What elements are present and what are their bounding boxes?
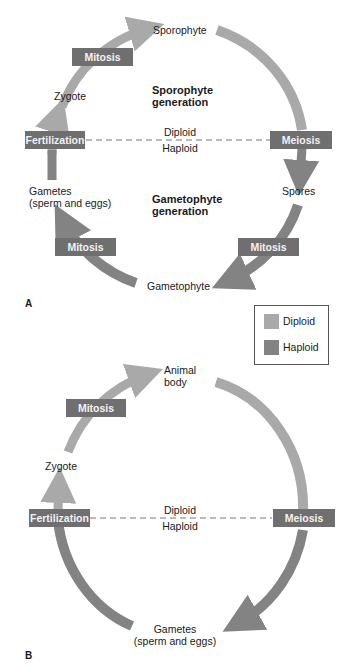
mitosis-box-right: Mitosis <box>238 238 299 256</box>
node-zygote: Zygote <box>54 90 86 102</box>
legend-label-haploid: Haploid <box>283 341 319 353</box>
mitosis-box-top: Mitosis <box>72 48 133 66</box>
divider-label-haploid-b: Haploid <box>155 520 205 532</box>
node-spores: Spores <box>282 185 315 197</box>
legend-swatch-haploid <box>264 340 279 355</box>
node-gametes-b-line2: (sperm and eggs) <box>130 635 220 647</box>
meiosis-box: Meiosis <box>270 131 332 149</box>
sporophyte-generation-line2: generation <box>152 96 208 109</box>
arrow-gametes-to-fertilization <box>58 520 132 626</box>
fertilization-box: Fertilization <box>25 131 85 149</box>
node-gametophyte: Gametophyte <box>147 280 210 292</box>
arrow-fertilization-to-zygote-b <box>58 485 59 510</box>
gametophyte-generation-line2: generation <box>152 205 208 218</box>
divider-label-diploid: Diploid <box>155 126 205 138</box>
mitosis-box-left: Mitosis <box>55 238 116 256</box>
panel-label-a: A <box>25 298 32 309</box>
node-animal-body-line1: Animal <box>164 364 196 376</box>
legend-swatch-diploid <box>264 314 279 329</box>
arrow-animal-body-to-meiosis <box>216 382 303 512</box>
divider-label-diploid-b: Diploid <box>155 504 205 516</box>
legend: Diploid Haploid <box>254 305 329 365</box>
arrow-meiosis-to-spores <box>300 148 302 178</box>
node-animal-body-line2: body <box>164 376 187 388</box>
arrow-meiosis-to-gametes <box>240 530 303 622</box>
panel-label-b: B <box>25 650 32 661</box>
fertilization-box-b: Fertilization <box>29 509 90 527</box>
meiosis-box-b: Meiosis <box>273 509 335 527</box>
node-gametes-line1: Gametes <box>29 185 72 197</box>
node-gametes-line2: (sperm and eggs) <box>29 197 111 209</box>
mitosis-box-b: Mitosis <box>66 399 126 417</box>
legend-label-diploid: Diploid <box>283 315 315 327</box>
arrow-sporophyte-to-meiosis <box>217 30 302 130</box>
node-gametes-b-line1: Gametes <box>130 623 220 635</box>
node-zygote-b: Zygote <box>45 460 77 472</box>
divider-label-haploid: Haploid <box>155 142 205 154</box>
node-sporophyte: Sporophyte <box>153 24 207 36</box>
